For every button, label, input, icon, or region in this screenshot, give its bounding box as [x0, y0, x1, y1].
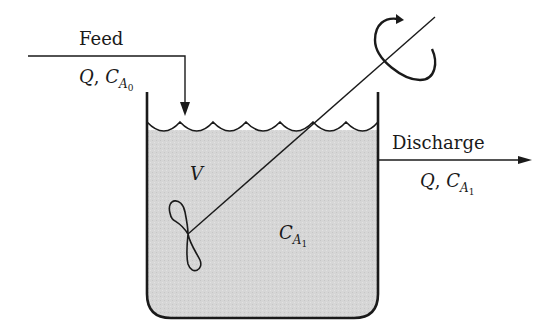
discharge-stream-spec: Q, CA1 — [420, 170, 474, 197]
feed-conc-sub: A — [119, 77, 128, 91]
feed-stream-spec: Q, CA0 — [79, 66, 133, 93]
tank-concentration-label: CA1 — [279, 222, 307, 249]
cstr-diagram — [0, 0, 557, 333]
rotation-arrow-icon — [375, 19, 435, 80]
feed-flow-symbol: Q — [79, 66, 94, 87]
feed-conc-subsub: 0 — [128, 83, 134, 93]
discharge-label: Discharge — [392, 132, 485, 153]
tank-conc-symbol: C — [279, 222, 293, 243]
feed-label: Feed — [79, 28, 123, 49]
discharge-conc-sub: A — [460, 181, 469, 195]
separator: , — [435, 170, 441, 191]
liquid-fill — [147, 130, 378, 318]
discharge-flow-symbol: Q — [420, 170, 435, 191]
discharge-conc-symbol: C — [446, 170, 460, 191]
discharge-conc-subsub: 1 — [469, 187, 475, 197]
feed-arrow-icon — [180, 102, 190, 116]
separator: , — [94, 66, 100, 87]
discharge-arrow-icon — [518, 156, 532, 164]
rotation-arrowhead-icon — [396, 14, 404, 24]
feed-conc-symbol: C — [105, 66, 119, 87]
tank-conc-subsub: 1 — [301, 239, 307, 249]
tank-volume-label: V — [190, 163, 203, 184]
